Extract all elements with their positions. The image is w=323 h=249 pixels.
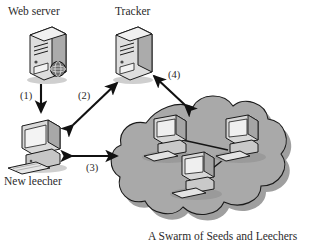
step-label-2: (2) bbox=[78, 91, 90, 102]
web-server-label: Web server bbox=[8, 6, 60, 18]
new-leecher-computer-icon bbox=[8, 120, 67, 174]
step-label-3: (3) bbox=[86, 163, 98, 174]
diagram-graphics bbox=[0, 0, 323, 249]
new-leecher-label: New leecher bbox=[4, 176, 62, 188]
step-label-4: (4) bbox=[168, 70, 180, 81]
bittorrent-swarm-diagram: Web server Tracker New leecher A Swarm o… bbox=[0, 0, 323, 249]
swarm-cloud-icon bbox=[111, 96, 291, 220]
web-server-tower-globe-icon bbox=[27, 27, 67, 84]
tracker-tower-icon bbox=[113, 27, 153, 84]
swarm-caption: A Swarm of Seeds and Leechers bbox=[148, 231, 297, 243]
tracker-label: Tracker bbox=[115, 6, 150, 18]
step-label-1: (1) bbox=[20, 91, 32, 102]
